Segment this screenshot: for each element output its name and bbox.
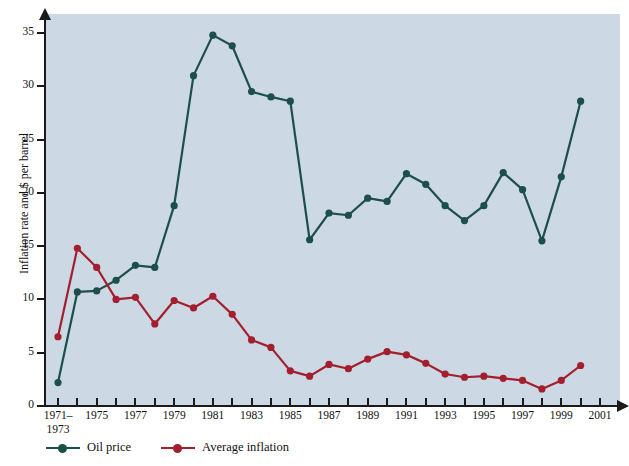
- x-tick: [541, 398, 543, 406]
- x-tick: [464, 398, 466, 406]
- x-tick-label: 1987: [318, 409, 341, 421]
- x-tick: [193, 398, 195, 406]
- x-tick-label: 1985: [279, 409, 302, 421]
- x-tick-label: 1975: [85, 409, 108, 421]
- y-axis-arrow-icon: [39, 8, 51, 20]
- x-tick-label: 1983: [240, 409, 263, 421]
- x-tick: [96, 398, 98, 406]
- y-tick-label: 0: [2, 399, 34, 410]
- y-tick: [37, 139, 45, 141]
- plot-area-background: [46, 14, 620, 406]
- y-tick-label: 5: [2, 346, 34, 357]
- x-tick: [115, 398, 117, 406]
- x-tick-label: 2001: [589, 409, 612, 421]
- x-tick-label: 1999: [550, 409, 573, 421]
- legend-item-average-inflation[interactable]: Average inflation: [161, 440, 289, 455]
- y-tick: [37, 245, 45, 247]
- x-tick: [580, 398, 582, 406]
- x-axis-line: [44, 405, 620, 407]
- chart-legend: Oil price Average inflation: [46, 440, 289, 455]
- legend-label-oil-price: Oil price: [87, 440, 131, 455]
- legend-marker-icon: [161, 442, 195, 454]
- x-tick-label: 1977: [124, 409, 147, 421]
- x-tick-label: 1979: [163, 409, 186, 421]
- x-tick-label: 1991: [395, 409, 418, 421]
- x-tick: [251, 398, 253, 406]
- x-tick: [309, 398, 311, 406]
- y-tick: [37, 85, 45, 87]
- x-tick-label: 1995: [472, 409, 495, 421]
- x-tick: [425, 398, 427, 406]
- x-tick: [367, 398, 369, 406]
- x-tick: [328, 398, 330, 406]
- x-tick: [289, 398, 291, 406]
- x-tick: [212, 398, 214, 406]
- x-tick: [405, 398, 407, 406]
- x-tick: [173, 398, 175, 406]
- y-tick: [37, 405, 45, 407]
- x-tick: [347, 398, 349, 406]
- y-tick: [37, 352, 45, 354]
- legend-item-oil-price[interactable]: Oil price: [46, 440, 131, 455]
- x-tick-label: 1971–: [44, 409, 73, 421]
- x-tick: [57, 398, 59, 406]
- x-tick: [134, 398, 136, 406]
- x-tick-label-second-line: 1973: [47, 423, 70, 435]
- y-axis-line: [44, 14, 46, 406]
- x-tick-label: 1997: [511, 409, 534, 421]
- y-tick: [37, 32, 45, 34]
- y-tick-label: 35: [2, 26, 34, 37]
- x-tick: [154, 398, 156, 406]
- x-tick: [386, 398, 388, 406]
- x-tick-label: 1981: [201, 409, 224, 421]
- x-tick: [483, 398, 485, 406]
- x-tick: [522, 398, 524, 406]
- x-tick: [231, 398, 233, 406]
- x-tick-label: 1993: [434, 409, 457, 421]
- x-tick: [560, 398, 562, 406]
- x-tick-label: 1989: [356, 409, 379, 421]
- x-tick: [444, 398, 446, 406]
- x-tick: [270, 398, 272, 406]
- y-axis-title: Inflation rate and $ per barrel: [17, 84, 32, 324]
- x-tick: [76, 398, 78, 406]
- x-tick: [599, 398, 601, 406]
- y-tick: [37, 298, 45, 300]
- x-tick: [502, 398, 504, 406]
- legend-marker-icon: [46, 442, 80, 454]
- y-tick: [37, 192, 45, 194]
- legend-label-average-inflation: Average inflation: [202, 440, 289, 455]
- x-axis-arrow-icon: [617, 400, 629, 412]
